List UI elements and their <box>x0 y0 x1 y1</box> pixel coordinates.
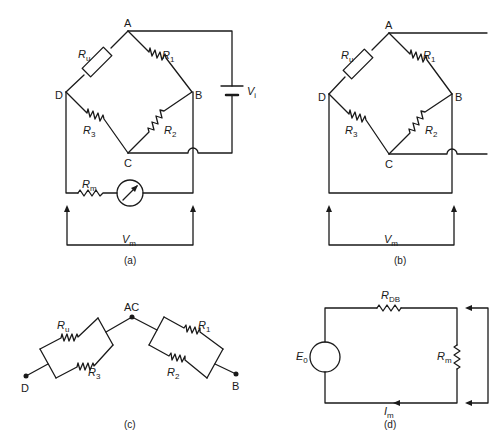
right-group-left-edge <box>149 317 164 345</box>
wire-a-to-ru <box>372 33 389 50</box>
resistor-r2 <box>389 94 452 154</box>
label-vm: Vm <box>122 233 136 248</box>
wire-ru-to-d <box>329 77 345 94</box>
wire-ru-to-d <box>66 75 84 92</box>
label-r2: R2 <box>425 124 438 139</box>
resistor-rm <box>454 345 460 369</box>
panel-c: D AC B Ru R3 R1 R2 (c) <box>21 301 239 430</box>
label-ru: Ru <box>57 319 69 334</box>
label-ru: Ru <box>341 49 353 64</box>
node-d-label: D <box>55 89 63 101</box>
current-arrow <box>393 400 400 406</box>
caption-b: (b) <box>394 255 406 266</box>
resistor-r3 <box>329 94 389 154</box>
label-r3: R3 <box>83 124 96 139</box>
resistor-rm <box>78 190 117 196</box>
wire-d-to-left-group <box>26 364 48 376</box>
wire-top-left <box>325 308 377 342</box>
label-rdb: RDB <box>381 289 400 304</box>
label-ru: Ru <box>78 48 90 63</box>
arrow-up-right <box>451 205 457 212</box>
wire-meter-to-b <box>143 92 193 193</box>
node-b-label: B <box>232 380 239 392</box>
resistor-r2 <box>128 92 192 153</box>
node-ac-label: AC <box>124 301 139 313</box>
source-e0-icon <box>310 342 340 372</box>
node-a-label: A <box>124 17 132 29</box>
label-rm: Rm <box>437 350 452 365</box>
panel-d: RDB Rm E0 Im (d) <box>296 289 488 430</box>
label-vm: Vm <box>384 233 398 248</box>
wire-battery-to-c <box>128 95 232 153</box>
node-d-label: D <box>318 91 326 103</box>
arrow-up-left <box>326 205 332 212</box>
wire-top-right <box>401 308 457 345</box>
resistor-r1 <box>389 33 452 94</box>
label-rm: Rm <box>82 178 97 193</box>
label-e0: E0 <box>296 350 308 365</box>
wire-left-group-to-ac <box>106 317 132 332</box>
label-r3: R3 <box>88 366 101 381</box>
wire-ac-to-right-group <box>132 317 157 330</box>
arrow-up-left <box>64 205 70 212</box>
node-b-label: B <box>455 91 462 103</box>
node-c-label: C <box>385 158 393 170</box>
node-d-label: D <box>21 382 29 394</box>
caption-a: (a) <box>124 255 136 266</box>
left-group-left-edge <box>40 349 56 378</box>
wire-d-b-loop <box>329 94 452 193</box>
wire-a-to-battery <box>128 31 232 86</box>
wire-right-group-to-b <box>215 364 236 374</box>
resistor-r3 <box>66 92 128 153</box>
panel-b: A D B C Ru R1 R3 R2 Vm (b) <box>318 19 487 266</box>
label-vi: Vi <box>247 85 256 100</box>
label-r2: R2 <box>167 366 180 381</box>
wire-a-to-ru <box>111 31 128 48</box>
node-c-label: C <box>124 157 132 169</box>
panel-a: A D B C Ru R1 R3 R2 Rm Vi Vm (a) <box>55 17 256 266</box>
wire-bottom <box>325 369 457 403</box>
resistor-r1 <box>128 31 192 92</box>
resistor-r3 <box>56 345 113 378</box>
circuit-diagram: A D B C Ru R1 R3 R2 Rm Vi Vm (a) A D B C… <box>0 0 503 446</box>
wire-c-out <box>389 149 487 154</box>
arrow-left-top <box>465 305 472 311</box>
caption-c: (c) <box>124 419 136 430</box>
node-a-label: A <box>385 19 393 31</box>
resistor-r1 <box>164 317 223 349</box>
label-r3: R3 <box>345 124 358 139</box>
wire-d-down <box>66 92 78 193</box>
node-b-label: B <box>195 89 202 101</box>
label-r2: R2 <box>164 124 177 139</box>
caption-d: (d) <box>384 419 396 430</box>
resistor-rdb <box>377 305 401 311</box>
label-r1: R1 <box>423 49 436 64</box>
label-im: Im <box>384 405 394 420</box>
left-group-right-edge <box>98 318 113 345</box>
arrow-left-bottom <box>465 400 472 406</box>
measure-bracket <box>470 308 488 403</box>
arrow-up-right <box>190 205 196 212</box>
